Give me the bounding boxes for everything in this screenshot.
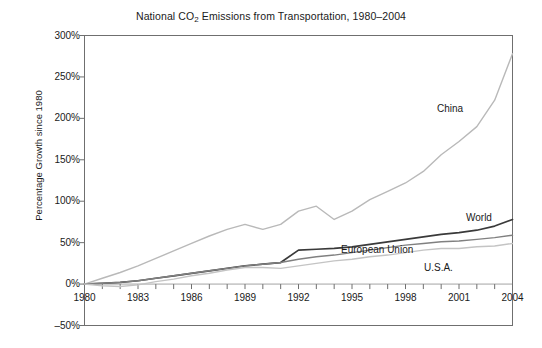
series-label-european-union: European Union (341, 244, 413, 255)
x-tick-label: 1998 (386, 292, 426, 303)
y-tick-label-wrap: 300% (36, 31, 80, 41)
x-tick-label: 1986 (172, 292, 212, 303)
y-tick-label: 0% (40, 279, 80, 289)
x-tick-label: 1980 (65, 292, 105, 303)
y-tick-label: 50% (40, 238, 80, 248)
axes-frame (85, 36, 513, 326)
y-tick-label: 250% (40, 72, 80, 82)
y-tick-label: 200% (40, 113, 80, 123)
x-tick-label: 1995 (332, 292, 372, 303)
y-tick-label-wrap: 250% (36, 72, 80, 82)
y-tick-label-wrap: 150% (36, 155, 80, 165)
y-tick-label-wrap: 50% (36, 238, 80, 248)
series-label-china: China (437, 103, 463, 114)
series-label-world: World (466, 212, 492, 223)
chart-figure: National CO2 Emissions from Transportati… (0, 0, 542, 348)
y-tick-label-wrap: 0% (36, 279, 80, 289)
x-tick-label: 1992 (279, 292, 319, 303)
x-tick-label: 2004 (493, 292, 533, 303)
x-tick-label: 1983 (118, 292, 158, 303)
tick-marks (80, 36, 513, 326)
plot-frame (85, 36, 513, 326)
y-tick-label: 100% (40, 196, 80, 206)
y-tick-label: 300% (40, 31, 80, 41)
y-tick-label-wrap: 200% (36, 113, 80, 123)
x-tick-label: 2001 (439, 292, 479, 303)
y-tick-label-wrap: –50% (36, 321, 80, 331)
y-tick-label: –50% (40, 321, 80, 331)
y-tick-label-wrap: 100% (36, 196, 80, 206)
series-lines (85, 54, 513, 287)
series-line-european-union (85, 235, 513, 284)
y-tick-label: 150% (40, 155, 80, 165)
series-label-u-s-a: U.S.A. (424, 262, 453, 273)
series-line-world (85, 219, 513, 284)
x-tick-label: 1989 (225, 292, 265, 303)
